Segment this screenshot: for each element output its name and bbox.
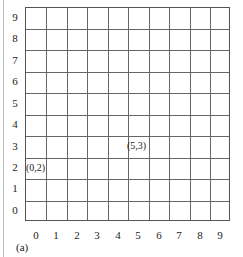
y-tick-label: 6 [10, 75, 20, 87]
grid-line [26, 115, 229, 116]
grid-line [26, 93, 229, 94]
point-label-5-3: (5,3) [127, 140, 146, 151]
x-tick-label: 7 [173, 229, 185, 241]
y-tick-label: 1 [10, 182, 20, 194]
y-tick-label: 0 [10, 204, 20, 216]
grid-line [26, 136, 229, 137]
grid-line [26, 158, 229, 159]
y-tick-label: 7 [10, 54, 20, 66]
x-tick-label: 0 [30, 229, 42, 241]
y-tick-label: 5 [10, 97, 20, 109]
x-tick-label: 4 [112, 229, 124, 241]
grid-line [26, 179, 229, 180]
x-tick-label: 5 [132, 229, 144, 241]
x-tick-label: 6 [153, 229, 165, 241]
point-label-0-2: (0,2) [26, 162, 45, 173]
y-tick-label: 3 [10, 140, 20, 152]
x-tick-label: 3 [91, 229, 103, 241]
page-edge-line [3, 0, 4, 257]
grid-line [26, 201, 229, 202]
y-tick-label: 2 [10, 161, 20, 173]
x-tick-label: 1 [50, 229, 62, 241]
y-tick-label: 4 [10, 118, 20, 130]
grid-line [26, 29, 229, 30]
grid-line [26, 50, 229, 51]
coordinate-grid [25, 7, 230, 221]
x-tick-label: 8 [194, 229, 206, 241]
y-tick-label: 8 [10, 32, 20, 44]
y-tick-label: 9 [10, 11, 20, 23]
x-tick-label: 2 [71, 229, 83, 241]
figure-caption: (a) [16, 241, 28, 253]
x-tick-label: 9 [214, 229, 226, 241]
grid-line [26, 72, 229, 73]
